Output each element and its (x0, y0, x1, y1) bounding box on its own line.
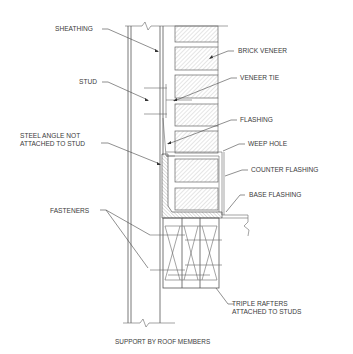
stud-wall (128, 26, 131, 323)
label-sheathing: SHEATHING (55, 25, 93, 32)
leader-lines (100, 29, 248, 304)
label-triple-rafters-2: ATTACHED TO STUDS (232, 308, 302, 315)
label-triple-rafters-1: TRIPLE RAFTERS (232, 300, 288, 307)
label-weep-hole: WEEP HOLE (248, 140, 288, 147)
label-fasteners: FASTENERS (50, 207, 90, 214)
label-veneer-tie: VENEER TIE (240, 74, 280, 81)
base-flashing (222, 152, 249, 236)
wall-section-diagram: SHEATHING STUD STEEL ANGLE NOT ATTACHED … (0, 0, 353, 354)
label-base-flashing: BASE FLASHING (249, 191, 301, 198)
label-steel-angle-1: STEEL ANGLE NOT (20, 132, 80, 139)
label-steel-angle-2: ATTACHED TO STUD (20, 140, 85, 147)
diagram-caption: SUPPORT BY ROOF MEMBERS (115, 338, 210, 345)
triple-rafters (150, 218, 222, 288)
label-brick-veneer: BRICK VENEER (238, 47, 287, 54)
label-flashing: FLASHING (240, 116, 273, 123)
labels: SHEATHING STUD STEEL ANGLE NOT ATTACHED … (20, 25, 318, 345)
label-stud: STUD (79, 78, 97, 85)
brick-veneer (175, 26, 218, 210)
label-counter-flashing: COUNTER FLASHING (251, 166, 318, 173)
